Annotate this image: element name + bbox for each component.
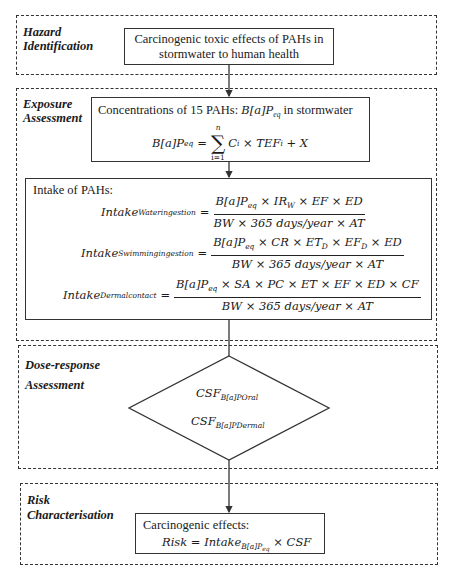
concentration-title-text: Concentrations of 15 PAHs:	[98, 103, 241, 117]
sum-symbol: n ∑ i=1	[211, 123, 225, 163]
eq-rhs-end: + X	[283, 136, 308, 151]
eq-equals: =	[197, 136, 207, 151]
intake-swimming-ingestion: IntakeSwimmingingestion = B[a]Peq × CR ×…	[81, 235, 404, 272]
hazard-line-1: Carcinogenic toxic effects of PAHs in	[125, 32, 333, 47]
num-part: × SA × PC × ET × EF × ED × CF	[217, 277, 418, 291]
intake-dermal-contact: IntakeDermalcontact = B[a]Peq × SA × PC …	[63, 277, 421, 314]
num-part: × ED	[367, 235, 402, 249]
risk-formula-subsub: eq	[262, 545, 269, 552]
concentration-title-math: B[a]P	[241, 103, 273, 117]
eq-rhs-mid: × TEF	[239, 136, 280, 151]
risk-formula-sub: B[a]P	[241, 542, 262, 551]
intake-water-numerator: B[a]Peq × IRW × EF × ED	[214, 194, 365, 215]
intake-dermal-lhs: Intake	[63, 288, 100, 303]
intake-water-denominator: BW × 365 days/year × AT	[214, 215, 365, 231]
intake-swim-lhs: Intake	[81, 246, 118, 261]
risk-formula-lhs: Risk = Intake	[162, 535, 241, 549]
intake-swim-denominator: BW × 365 days/year × AT	[232, 256, 383, 272]
section-label-hazard: Hazard Identification	[23, 25, 93, 53]
intake-dermal-lhs-sub: Dermalcontact	[100, 288, 156, 303]
equals: =	[200, 205, 210, 220]
concentration-title: Concentrations of 15 PAHs: B[a]Peq in st…	[98, 103, 353, 122]
eq-rhs: C	[228, 136, 237, 151]
intake-swim-numerator: B[a]Peq × CR × ETD × EFD × ED	[211, 235, 404, 256]
eq-lhs: B[a]P	[152, 136, 184, 151]
num-part: × EF	[328, 235, 361, 249]
intake-water-fraction: B[a]Peq × IRW × EF × ED BW × 365 days/ye…	[214, 194, 365, 231]
csf-dermal-label: CSF	[191, 414, 216, 428]
risk-formula-rhs: × CSF	[270, 535, 312, 549]
num-part: B[a]P	[213, 235, 245, 249]
sigma-icon: ∑	[211, 133, 225, 153]
csf-dermal-sub: B[a]PDermal	[216, 421, 265, 430]
intake-swim-fraction: B[a]Peq × CR × ETD × EFD × ED BW × 365 d…	[211, 235, 404, 272]
bap-equation: B[a]Peq = n ∑ i=1 Ci × TEFi + X	[152, 123, 308, 163]
hazard-box: Carcinogenic toxic effects of PAHs in st…	[124, 28, 334, 65]
intake-box: Intake of PAHs: IntakeWateringestion = B…	[25, 178, 432, 320]
csf-dermal: CSFB[a]PDermal	[191, 414, 265, 433]
num-part: × IR	[257, 194, 287, 208]
intake-water-ingestion: IntakeWateringestion = B[a]Peq × IRW × E…	[101, 194, 365, 231]
section-label-dose: Dose-response Assessment	[25, 355, 100, 395]
equals: =	[198, 246, 208, 261]
num-part: B[a]P	[176, 277, 208, 291]
intake-dermal-denominator: BW × 365 days/year × AT	[222, 298, 373, 314]
hazard-line-2: stormwater to human health	[125, 47, 333, 62]
sum-lower: i=1	[211, 153, 224, 163]
concentration-box: Concentrations of 15 PAHs: B[a]Peq in st…	[91, 97, 370, 162]
risk-formula: Risk = IntakeB[a]Peq × CSF	[162, 535, 311, 556]
csf-oral-label: CSF	[196, 386, 221, 400]
concentration-title-suffix: in stormwater	[280, 103, 352, 117]
num-sub: W	[287, 201, 295, 210]
section-label-risk: Risk Characterisation	[27, 493, 114, 523]
csf-oral: CSFB[a]POral	[196, 386, 258, 405]
num-part: × CR × ET	[254, 235, 321, 249]
intake-dermal-fraction: B[a]Peq × SA × PC × ET × EF × ED × CF BW…	[174, 277, 421, 314]
risk-title: Carcinogenic effects:	[143, 518, 249, 533]
intake-swim-lhs-sub: Swimmingingestion	[118, 246, 193, 261]
intake-water-lhs-sub: Wateringestion	[138, 205, 196, 220]
num-part: B[a]P	[216, 194, 248, 208]
eq-lhs-sub: eq	[184, 136, 193, 151]
intake-water-lhs: Intake	[101, 205, 138, 220]
intake-dermal-numerator: B[a]Peq × SA × PC × ET × EF × ED × CF	[174, 277, 421, 298]
risk-box: Carcinogenic effects: Risk = IntakeB[a]P…	[135, 513, 325, 554]
equals: =	[160, 288, 170, 303]
section-label-exposure: Exposure Assessment	[23, 97, 82, 125]
csf-oral-sub: B[a]POral	[221, 393, 259, 402]
num-sub: eq	[248, 201, 257, 210]
num-sub: eq	[208, 284, 217, 293]
num-part: × EF × ED	[295, 194, 363, 208]
